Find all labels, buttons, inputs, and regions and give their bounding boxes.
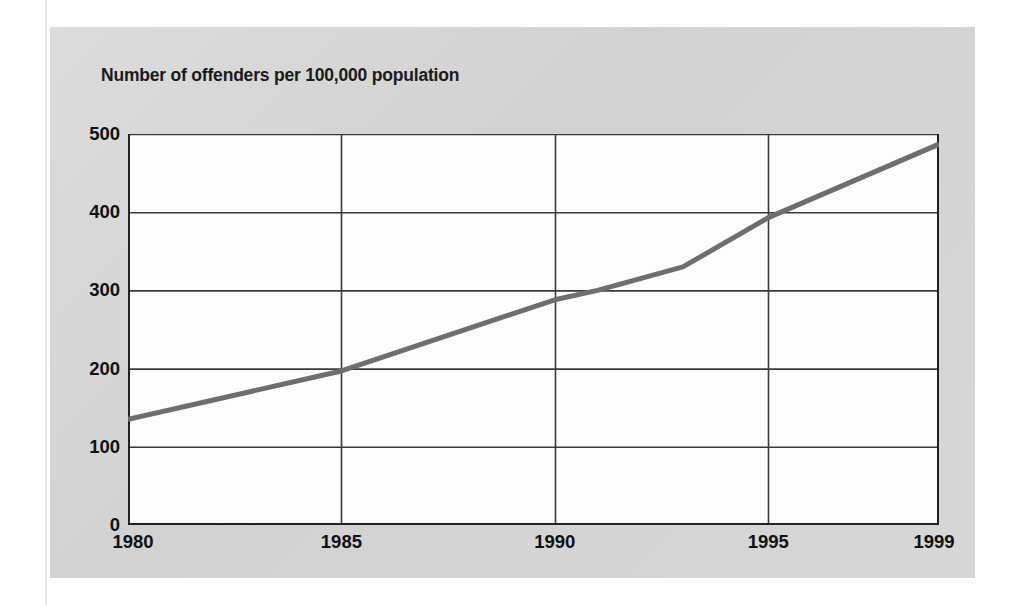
x-axis-tick-labels: 19801985199019951999 [50,533,975,563]
page-gutter-line [45,0,47,605]
y-tick-label-500: 500 [64,125,120,144]
figure-panel: Number of offenders per 100,000 populati… [50,27,975,578]
x-tick-label-1980: 1980 [88,533,178,552]
data-series-lines [128,144,939,419]
x-tick-label-1985: 1985 [296,533,386,552]
line-chart-svg [128,134,939,525]
x-tick-label-1995: 1995 [723,533,813,552]
y-tick-label-100: 100 [64,438,120,457]
data-line-series-0 [128,144,939,419]
x-tick-label-1990: 1990 [510,533,600,552]
vertical-gridlines [342,134,769,525]
plot-area [128,134,939,525]
y-tick-label-300: 300 [64,281,120,300]
chart-title: Number of offenders per 100,000 populati… [101,65,459,86]
y-axis-tick-labels: 0100200300400500 [58,134,120,525]
x-tick-label-1999: 1999 [889,533,979,552]
horizontal-gridlines [128,135,939,448]
axis-lines [128,134,939,525]
y-tick-label-200: 200 [64,360,120,379]
y-tick-label-400: 400 [64,203,120,222]
